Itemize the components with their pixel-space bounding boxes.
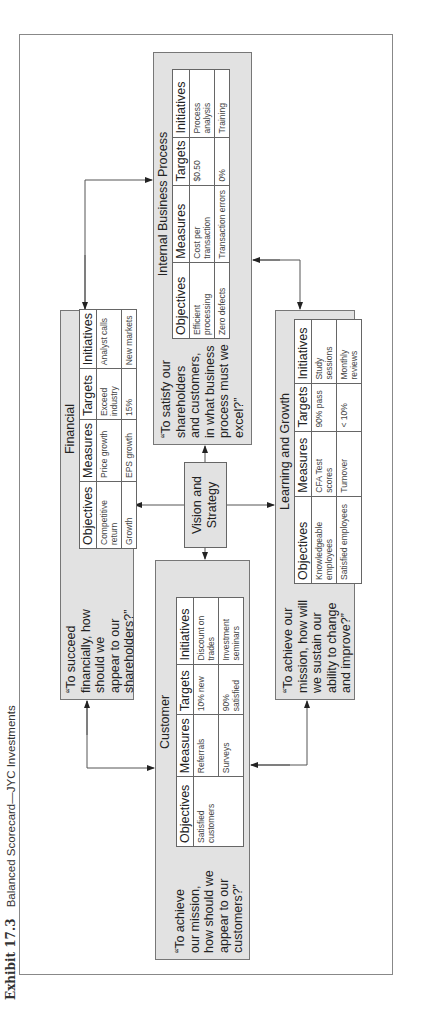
scorecard-table: ObjectivesMeasures TargetsInitiatives Ef… xyxy=(172,69,230,339)
balanced-scorecard-diagram: Exhibit 17.3 Balanced Scorecard—JYC Inve… xyxy=(0,0,421,1035)
table-row: Satisfied employees Turnover < 10% Month… xyxy=(337,320,362,584)
scorecard-table: ObjectivesMeasures TargetsInitiatives Sa… xyxy=(176,597,244,847)
table-row: Growth EPS growth 15% New markets xyxy=(122,310,137,549)
panel-learning-and-growth: Learning and Growth “To achieve our miss… xyxy=(275,310,355,700)
table-row: Satisfied customers Referrals 10% new Di… xyxy=(194,598,219,847)
vision-and-strategy-box: Vision and Strategy xyxy=(184,462,227,548)
panel-title: Financial xyxy=(63,309,77,549)
table-row: Competitive return Price growth Exceed i… xyxy=(97,310,122,549)
panel-title: Customer xyxy=(158,597,172,847)
panel-internal-business-process: Internal Business Process “To satisfy ou… xyxy=(153,52,252,445)
scorecard-table: ObjectivesMeasures TargetsInitiatives Co… xyxy=(79,309,137,549)
panel-question: “To achieve our mission, how should we a… xyxy=(173,870,246,953)
table-row: Efficient processing Cost per transactio… xyxy=(190,70,215,339)
table-row: Zero defects Transaction errors 0% Train… xyxy=(215,70,230,339)
panel-title: Internal Business Process xyxy=(156,69,170,339)
scorecard-table: ObjectivesMeasures TargetsInitiatives Kn… xyxy=(294,319,362,584)
panel-question: “To satisfy our shareholders and custome… xyxy=(159,344,246,438)
panel-customer: Customer “To achieve our mission, how sh… xyxy=(155,560,250,960)
table-row: Knowledgeable employees CFA Test scores … xyxy=(312,320,337,584)
panel-financial: Financial “To succeed financially, how s… xyxy=(60,310,134,700)
panel-question: “To succeed financially, how should we a… xyxy=(64,609,137,693)
panel-title: Learning and Growth xyxy=(278,319,292,584)
panel-question: “To achieve our mission, how will we sus… xyxy=(281,600,354,693)
